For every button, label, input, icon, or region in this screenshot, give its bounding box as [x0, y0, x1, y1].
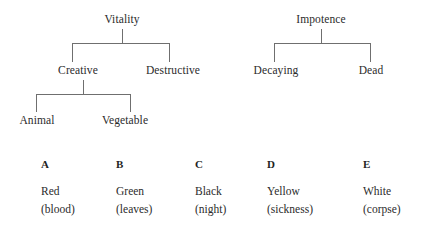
legend-color-c: Black — [195, 185, 226, 198]
tree-node-animal: Animal — [19, 114, 54, 127]
legend-letter-b: B — [116, 158, 152, 171]
legend-column-e: E White (corpse) — [363, 158, 401, 216]
legend-letter-c: C — [195, 158, 226, 171]
legend-letter-a: A — [41, 158, 75, 171]
connector-creative-leg-left — [36, 94, 37, 112]
legend-letter-d: D — [267, 158, 313, 171]
legend-color-d: Yellow — [267, 185, 313, 198]
legend-column-d: D Yellow (sickness) — [267, 158, 313, 216]
connector-vitality-leg-left — [72, 43, 73, 62]
connector-creative-bar — [36, 94, 130, 95]
connector-impotence-stem — [321, 29, 322, 43]
tree-node-impotence: Impotence — [296, 13, 345, 26]
tree-node-creative: Creative — [58, 64, 98, 77]
legend-color-a: Red — [41, 185, 75, 198]
legend-gloss-a: (blood) — [41, 203, 75, 216]
legend-color-b: Green — [116, 185, 152, 198]
tree-node-decaying: Decaying — [254, 64, 299, 77]
connector-vitality-leg-right — [169, 43, 170, 62]
tree-node-destructive: Destructive — [146, 64, 200, 77]
connector-vitality-bar — [72, 43, 170, 44]
connector-creative-leg-right — [130, 94, 131, 112]
legend-column-b: B Green (leaves) — [116, 158, 152, 216]
connector-impotence-bar — [274, 43, 370, 44]
connector-impotence-leg-right — [370, 43, 371, 62]
legend-color-e: White — [363, 185, 401, 198]
figure-canvas: Vitality Creative Destructive Animal Veg… — [0, 0, 424, 237]
connector-creative-stem — [83, 80, 84, 94]
legend-gloss-b: (leaves) — [116, 203, 152, 216]
connector-vitality-stem — [122, 29, 123, 43]
legend-column-a: A Red (blood) — [41, 158, 75, 216]
legend-column-c: C Black (night) — [195, 158, 226, 216]
legend-letter-e: E — [363, 158, 401, 171]
legend-gloss-e: (corpse) — [363, 203, 401, 216]
tree-node-vegetable: Vegetable — [102, 114, 148, 127]
tree-node-dead: Dead — [359, 64, 384, 77]
legend-gloss-c: (night) — [195, 203, 226, 216]
legend-gloss-d: (sickness) — [267, 203, 313, 216]
connector-impotence-leg-left — [274, 43, 275, 62]
tree-node-vitality: Vitality — [104, 13, 139, 26]
